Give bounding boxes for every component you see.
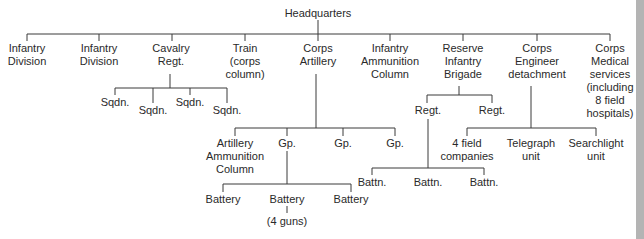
- node-cavalry-regt: CavalryRegt.: [152, 42, 189, 68]
- node-battery: Battery: [334, 193, 369, 206]
- connector-lines: [0, 0, 644, 239]
- node-regt: Regt.: [479, 104, 505, 117]
- node-train: Train(corpscolumn): [225, 42, 264, 81]
- node-regt: Regt.: [415, 104, 441, 117]
- node-sqdn: Sqdn.: [213, 104, 242, 117]
- node-sqdn: Sqdn.: [101, 96, 130, 109]
- node-sqdn: Sqdn.: [139, 104, 168, 117]
- node-battn: Battn.: [414, 176, 443, 189]
- node-battery: Battery: [206, 193, 241, 206]
- page-edge-strip: [636, 0, 644, 239]
- node-field-companies: 4 fieldcompanies: [440, 137, 493, 163]
- node-gp: Gp.: [386, 137, 404, 150]
- node-telegraph-unit: Telegraphunit: [507, 137, 555, 163]
- node-corps-engineer: CorpsEngineerdetachment: [508, 42, 565, 81]
- node-headquarters: Headquarters: [285, 7, 352, 20]
- node-corps-medical: CorpsMedicalservices(including8 fieldhos…: [586, 42, 633, 120]
- node-infantry-division-1: InfantryDivision: [8, 42, 47, 68]
- node-reserve-infantry-brigade: ReserveInfantryBrigade: [443, 42, 484, 81]
- node-sqdn: Sqdn.: [176, 96, 205, 109]
- node-gp: Gp.: [334, 137, 352, 150]
- org-chart: Headquarters InfantryDivision InfantryDi…: [0, 0, 644, 239]
- node-four-guns: (4 guns): [267, 215, 307, 228]
- node-gp: Gp.: [278, 137, 296, 150]
- node-battn: Battn.: [470, 176, 499, 189]
- node-infantry-division-2: InfantryDivision: [80, 42, 119, 68]
- node-artillery-ammunition-column: ArtilleryAmmunitionColumn: [206, 137, 264, 176]
- node-corps-artillery: CorpsArtillery: [300, 42, 337, 68]
- node-battn: Battn.: [358, 176, 387, 189]
- node-infantry-ammunition-column: InfantryAmmunitionColumn: [361, 42, 419, 81]
- node-searchlight-unit: Searchlightunit: [568, 137, 623, 163]
- node-battery: Battery: [270, 193, 305, 206]
